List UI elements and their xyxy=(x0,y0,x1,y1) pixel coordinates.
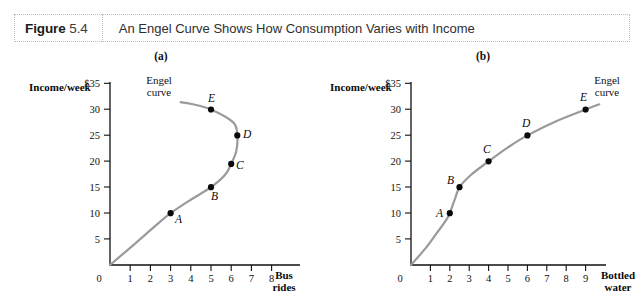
panel-b-origin-label: 0 xyxy=(397,273,402,284)
panel-a-origin-label: 0 xyxy=(96,273,101,284)
figure-label: Figure 5.4 xyxy=(15,21,88,36)
panel-b-caption: (b) xyxy=(322,50,644,62)
panel-b-ytick-25: 25 xyxy=(391,130,402,141)
panel-b-curve-note-2: curve xyxy=(595,86,620,98)
panel-b-xtick-3: 3 xyxy=(467,273,472,284)
panel-a-label-B: B xyxy=(211,190,218,202)
panel-b-label-C: C xyxy=(483,143,491,155)
panel-a-caption: (a) xyxy=(0,50,322,62)
panel-b-point-A xyxy=(447,210,453,216)
panel-b-xtick-8: 8 xyxy=(564,273,569,284)
panel-a-axes xyxy=(110,82,300,265)
panel-b-label-E: E xyxy=(579,91,587,103)
panel-a-xtick-2: 2 xyxy=(148,273,153,284)
panel-b-ytick-10: 10 xyxy=(391,208,402,219)
panel-b-label-B: B xyxy=(447,174,454,186)
panel-b-axes xyxy=(411,82,606,265)
panel-a-ytick-15: 15 xyxy=(90,182,101,193)
panel-a-ytick-25: 25 xyxy=(90,130,101,141)
panel-b-xtick-9: 9 xyxy=(583,273,588,284)
panel-a-label-C: C xyxy=(236,159,244,171)
panel-a-chart: Income/week $35 30 25 20 15 10 5 xyxy=(0,48,322,303)
panel-b-xtick-6: 6 xyxy=(525,273,530,284)
panel-a-xtick-7: 7 xyxy=(249,273,254,284)
panel-b-point-D xyxy=(524,132,530,138)
panel-b-xtick-1: 1 xyxy=(428,273,433,284)
panel-b-xtick-7: 7 xyxy=(544,273,549,284)
panel-a-ytick-5: 5 xyxy=(95,234,100,245)
panel-a-x-ticks: 1 2 3 4 5 6 7 8 xyxy=(128,265,275,284)
figure-title: An Engel Curve Shows How Consumption Var… xyxy=(103,21,475,36)
panel-b-curve-note-1: Engel xyxy=(594,74,620,86)
panel-b-label-D: D xyxy=(521,117,531,129)
figure-header: Figure 5.4 An Engel Curve Shows How Cons… xyxy=(14,14,630,42)
panel-a-ytick-30: 30 xyxy=(90,104,101,115)
panel-b-point-E xyxy=(583,106,589,112)
panel-b-xtick-5: 5 xyxy=(505,273,510,284)
panel-a-point-A xyxy=(168,210,174,216)
panel-b-ytick-35: $35 xyxy=(385,78,401,89)
panel-b-x-ticks: 1 2 3 4 5 6 7 8 9 xyxy=(428,265,588,284)
panel-b-xtick-2: 2 xyxy=(447,273,452,284)
panel-a-ytick-10: 10 xyxy=(90,208,101,219)
panel-a-point-C xyxy=(228,161,234,167)
panel-a-xtick-4: 4 xyxy=(188,273,194,284)
panel-b-engel-curve xyxy=(411,104,599,265)
panel-b-y-axis-title: Income/week xyxy=(330,81,393,93)
panel-b-point-B xyxy=(456,184,462,190)
panel-b-point-labels: A B C D E xyxy=(435,91,587,219)
panel-a-y-ticks: $35 30 25 20 15 10 5 xyxy=(84,78,110,245)
panel-b-ytick-20: 20 xyxy=(391,156,402,167)
panel-b-x-axis-title-2: water xyxy=(605,281,632,293)
figure-number: 5.4 xyxy=(69,21,87,36)
panel-b-data-points xyxy=(447,106,589,216)
panel-b-x-axis-title-1: Bottled xyxy=(601,269,635,281)
panel-a-ytick-35: $35 xyxy=(84,78,100,89)
panel-a: (a) Income/week $35 30 25 20 15 10 xyxy=(0,48,322,303)
panel-a-x-axis-title-1: Bus xyxy=(275,269,293,281)
figure-container: Figure 5.4 An Engel Curve Shows How Cons… xyxy=(0,0,644,303)
panel-b-ytick-30: 30 xyxy=(391,104,402,115)
panel-a-xtick-3: 3 xyxy=(168,273,173,284)
panel-b-xtick-4: 4 xyxy=(486,273,492,284)
panel-a-y-axis-title: Income/week xyxy=(29,81,92,93)
panel-a-x-axis-title-2: rides xyxy=(272,281,296,293)
panel-a-curve-note-1: Engel xyxy=(146,74,172,86)
panel-b-ytick-5: 5 xyxy=(396,234,401,245)
panel-b-ytick-15: 15 xyxy=(391,182,402,193)
panel-a-engel-curve xyxy=(110,102,237,265)
panel-b: (b) Income/week $35 30 25 20 15 10 5 xyxy=(322,48,644,303)
panel-b-y-ticks: $35 30 25 20 15 10 5 xyxy=(385,78,411,245)
panel-a-label-D: D xyxy=(242,128,252,140)
panel-a-data-points xyxy=(168,106,241,216)
panel-a-ytick-20: 20 xyxy=(90,156,101,167)
panel-a-xtick-5: 5 xyxy=(208,273,213,284)
panel-a-point-E xyxy=(208,106,214,112)
panel-a-xtick-6: 6 xyxy=(229,273,234,284)
panel-a-label-A: A xyxy=(174,213,183,225)
panel-b-chart: Income/week $35 30 25 20 15 10 5 0 xyxy=(322,48,644,303)
panel-b-label-A: A xyxy=(435,207,444,219)
panel-a-curve-note-2: curve xyxy=(147,86,172,98)
panel-a-point-D xyxy=(234,132,240,138)
panel-b-point-C xyxy=(486,158,492,164)
panel-a-xtick-1: 1 xyxy=(128,273,133,284)
panel-a-point-labels: A B C D E xyxy=(174,92,252,225)
panel-a-label-E: E xyxy=(207,92,215,104)
figure-word: Figure xyxy=(25,21,66,36)
